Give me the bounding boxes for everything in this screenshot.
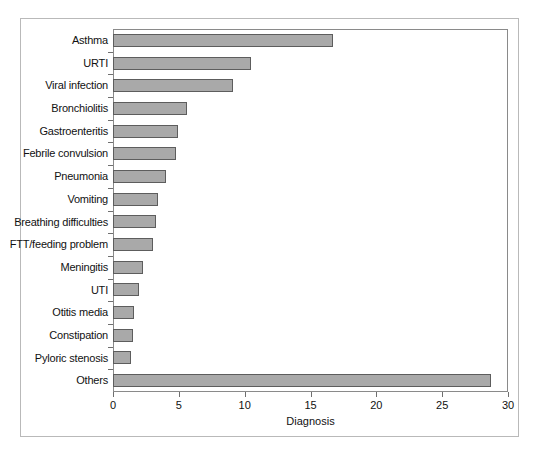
x-axis-title: Diagnosis	[113, 415, 508, 427]
bars-layer	[113, 29, 508, 392]
bar-row	[113, 74, 508, 97]
category-label: Pyloric stenosis	[0, 347, 108, 370]
bar-row	[113, 211, 508, 234]
bar	[113, 329, 133, 342]
bar	[113, 57, 251, 70]
category-label: Asthma	[0, 29, 108, 52]
bar	[113, 125, 178, 138]
bar	[113, 34, 333, 47]
y-axis-tick	[108, 52, 113, 53]
x-axis-tick	[179, 392, 180, 397]
bar	[113, 351, 131, 364]
x-axis-tick	[245, 392, 246, 397]
x-axis-tick	[442, 392, 443, 397]
y-axis-tick	[108, 279, 113, 280]
category-label: Others	[0, 369, 108, 392]
bar-row	[113, 165, 508, 188]
bar-row	[113, 369, 508, 392]
bar-row	[113, 52, 508, 75]
y-axis-tick	[108, 347, 113, 348]
y-axis-tick	[108, 142, 113, 143]
bar	[113, 102, 187, 115]
bar	[113, 306, 134, 319]
bar	[113, 283, 139, 296]
x-axis-tick-label: 0	[93, 399, 133, 411]
category-axis-labels: AsthmaURTIViral infectionBronchiolitisGa…	[0, 29, 108, 392]
y-axis-tick	[108, 97, 113, 98]
x-axis-tick	[508, 392, 509, 397]
y-axis-tick	[108, 369, 113, 370]
y-axis-tick	[108, 233, 113, 234]
y-axis-tick	[108, 120, 113, 121]
bar-row	[113, 97, 508, 120]
category-label: URTI	[0, 52, 108, 75]
category-label: UTI	[0, 279, 108, 302]
category-label: FTT/feeding problem	[0, 233, 108, 256]
bar-row	[113, 324, 508, 347]
y-axis-tick	[108, 256, 113, 257]
bar-row	[113, 347, 508, 370]
x-axis-tick-label: 30	[488, 399, 528, 411]
y-axis-tick	[108, 324, 113, 325]
category-label: Breathing difficulties	[0, 211, 108, 234]
bar	[113, 261, 143, 274]
bar	[113, 170, 166, 183]
y-axis-tick	[108, 211, 113, 212]
x-axis-tick-label: 20	[356, 399, 396, 411]
bar-row	[113, 29, 508, 52]
x-axis-tick	[113, 392, 114, 397]
y-axis-tick	[108, 165, 113, 166]
x-axis-tick-label: 10	[225, 399, 265, 411]
bar	[113, 238, 153, 251]
category-label: Otitis media	[0, 301, 108, 324]
bar	[113, 215, 156, 228]
bar-row	[113, 301, 508, 324]
bar	[113, 193, 158, 206]
category-label: Bronchiolitis	[0, 97, 108, 120]
chart-figure: AsthmaURTIViral infectionBronchiolitisGa…	[0, 0, 539, 452]
y-axis-tick	[108, 301, 113, 302]
bar-row	[113, 233, 508, 256]
y-axis-tick	[108, 74, 113, 75]
x-axis-tick-label: 25	[422, 399, 462, 411]
bar-row	[113, 279, 508, 302]
bar-row	[113, 142, 508, 165]
bar-row	[113, 256, 508, 279]
y-axis-tick	[108, 188, 113, 189]
category-label: Gastroenteritis	[0, 120, 108, 143]
x-axis-tick	[311, 392, 312, 397]
bar	[113, 79, 233, 92]
category-label: Febrile convulsion	[0, 142, 108, 165]
bar-row	[113, 120, 508, 143]
bar	[113, 374, 491, 387]
x-axis-tick	[376, 392, 377, 397]
x-axis-tick-label: 5	[159, 399, 199, 411]
category-label: Pneumonia	[0, 165, 108, 188]
bar-row	[113, 188, 508, 211]
x-axis-tick-label: 15	[291, 399, 331, 411]
bar	[113, 147, 176, 160]
category-label: Meningitis	[0, 256, 108, 279]
category-label: Viral infection	[0, 74, 108, 97]
category-label: Vomiting	[0, 188, 108, 211]
category-label: Constipation	[0, 324, 108, 347]
